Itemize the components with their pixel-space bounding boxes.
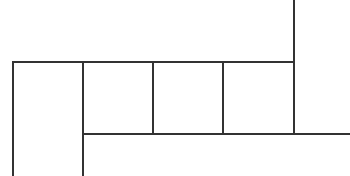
line-diagram: [0, 0, 350, 176]
